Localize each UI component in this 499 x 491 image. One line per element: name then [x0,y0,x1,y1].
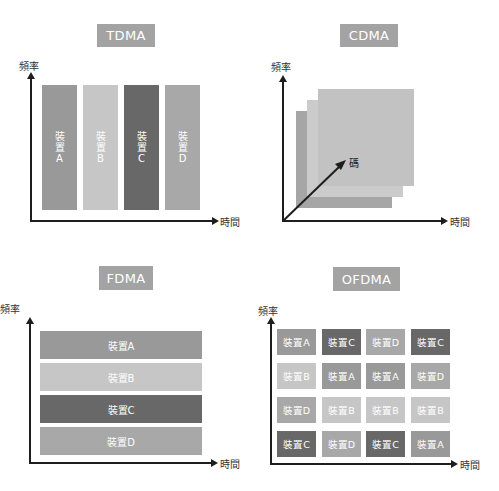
tdma-slot-label: C [138,153,145,164]
tdma-slot-label: 裝 [178,131,188,142]
ofdma-cell: 裝置B [277,363,316,389]
ofdma-cell-label: 裝置B [328,403,355,417]
x-axis [30,220,213,222]
ofdma-cell-label: 裝置D [372,335,399,349]
fdma-band-c: 裝置C [40,395,202,423]
cdma-title: CDMA [340,24,398,47]
fdma-band-label: 裝置B [108,370,135,385]
x-axis-arrow-icon [451,460,458,468]
fdma-band-b: 裝置B [40,363,202,391]
code-axis-label: 碼 [349,155,359,170]
y-axis [29,323,31,464]
frequency-axis-label: 頻率 [258,303,278,318]
frequency-axis-label: 頻率 [0,301,20,316]
tdma-slot-a: 裝 置 A [42,85,77,210]
tdma-slot-label: 裝 [137,131,147,142]
fdma-band-a: 裝置A [40,331,202,359]
fdma-band-label: 裝置D [107,434,135,449]
tdma-slot-label: 置 [55,142,65,153]
ofdma-cell-label: 裝置A [283,335,310,349]
x-axis-arrow-icon [212,217,219,225]
tdma-slot-label: B [97,153,104,164]
tdma-slot-label: 置 [178,142,188,153]
ofdma-cell-label: 裝置A [372,369,399,383]
ofdma-cell-label: 裝置B [372,403,399,417]
ofdma-cell-label: 裝置B [283,369,310,383]
tdma-slot-label: 裝 [96,131,106,142]
ofdma-cell: 裝置A [277,329,316,355]
x-axis-arrow-icon [211,459,218,467]
ofdma-cell: 裝置B [366,397,405,423]
ofdma-cell: 裝置C [411,329,450,355]
x-axis [270,463,452,465]
fdma-title: FDMA [99,266,153,290]
ofdma-title: OFDMA [333,267,400,291]
ofdma-cell: 裝置C [366,431,405,457]
y-axis [30,78,32,222]
ofdma-cell-label: 裝置A [417,437,444,451]
ofdma-cell: 裝置A [366,363,405,389]
ofdma-cell-label: 裝置D [328,437,355,451]
ofdma-cell-label: 裝置C [283,437,310,451]
time-axis-label: 時間 [450,214,470,229]
ofdma-cell-label: 裝置A [328,369,355,383]
tdma-slot-label: 裝 [55,131,65,142]
ofdma-cell-label: 裝置C [328,335,355,349]
ofdma-cell: 裝置A [322,363,361,389]
tdma-slot-label: D [179,153,187,164]
time-axis-label: 時間 [220,214,240,229]
fdma-band-label: 裝置A [108,338,135,353]
tdma-title: TDMA [97,24,155,47]
ofdma-cell-label: 裝置C [417,335,444,349]
ofdma-cell: 裝置C [322,329,361,355]
ofdma-cell-label: 裝置D [417,369,444,383]
tdma-slot-c: 裝 置 C [124,85,159,210]
fdma-band-label: 裝置C [108,402,135,417]
ofdma-cell: 裝置D [411,363,450,389]
ofdma-cell: 裝置C [277,431,316,457]
fdma-band-d: 裝置D [40,427,202,455]
tdma-slot-label: A [56,153,63,164]
time-axis-label: 時間 [460,457,480,472]
ofdma-cell-label: 裝置C [372,437,399,451]
tdma-slot-b: 裝 置 B [83,85,118,210]
frequency-axis-label: 頻率 [271,59,291,74]
x-axis-arrow-icon [441,217,448,225]
ofdma-cell-label: 裝置B [417,403,444,417]
time-axis-label: 時間 [220,456,240,471]
ofdma-cell: 裝置D [277,397,316,423]
code-axis-arrow-icon [280,150,350,225]
tdma-slot-label: 置 [96,142,106,153]
ofdma-cell-label: 裝置D [283,403,310,417]
ofdma-cell: 裝置B [411,397,450,423]
ofdma-cell: 裝置D [366,329,405,355]
ofdma-cell: 裝置B [322,397,361,423]
y-axis [270,323,272,465]
x-axis [29,462,212,464]
tdma-slot-label: 置 [137,142,147,153]
frequency-axis-label: 頻率 [19,58,39,73]
ofdma-cell: 裝置A [411,431,450,457]
ofdma-cell: 裝置D [322,431,361,457]
tdma-slot-d: 裝 置 D [165,85,200,210]
